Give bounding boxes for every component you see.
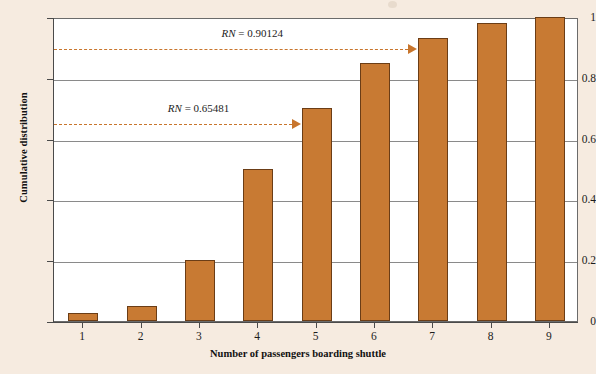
annotation-label-rn-high: RN = 0.90124 [222, 27, 284, 39]
x-axis-tick-label: 8 [471, 330, 511, 342]
bar-9 [535, 17, 565, 321]
bar-6 [360, 63, 390, 321]
x-axis-tick-label: 5 [296, 330, 336, 342]
x-axis-tick [141, 322, 142, 328]
y-axis-tick-label: 0.8 [552, 73, 596, 85]
y-axis-tick [47, 79, 54, 80]
bar-2 [127, 306, 157, 321]
x-axis-tick-label: 7 [412, 330, 452, 342]
x-axis-tick-label: 3 [179, 330, 219, 342]
x-axis-tick [257, 322, 258, 328]
y-axis-tick-label: 0.2 [552, 255, 596, 267]
y-axis-tick-label: 0.4 [552, 194, 596, 206]
x-axis-tick [316, 322, 317, 328]
y-axis-line [53, 18, 54, 323]
y-axis-tick-label: 0.6 [552, 134, 596, 146]
x-axis-tick-label: 1 [62, 330, 102, 342]
x-axis-tick [199, 322, 200, 328]
annotation-label-symbol: RN [168, 102, 182, 114]
y-axis-tick [47, 200, 54, 201]
annotation-dashed-line-rn-low [54, 124, 292, 125]
paper-speck [388, 1, 397, 8]
plot-area: RN = 0.90124RN = 0.65481 [53, 18, 578, 322]
y-axis-title: Cumulative distribution [18, 48, 29, 248]
x-axis-tick [491, 322, 492, 328]
x-axis-tick [549, 322, 550, 328]
x-axis-tick-label: 4 [237, 330, 277, 342]
bar-4 [243, 169, 273, 321]
x-axis-tick [374, 322, 375, 328]
x-axis-tick [82, 322, 83, 328]
y-axis-tick-label: 1 [552, 12, 596, 24]
x-axis-tick [432, 322, 433, 328]
x-axis-tick-label: 9 [529, 330, 569, 342]
figure-canvas: RN = 0.90124RN = 0.65481 00.20.40.60.81 … [0, 0, 596, 374]
bar-5 [302, 108, 332, 321]
annotation-arrowhead-rn-low [292, 119, 301, 129]
annotation-label-rn-low: RN = 0.65481 [168, 102, 230, 114]
annotation-arrowhead-rn-high [408, 44, 417, 54]
bar-3 [185, 260, 215, 321]
y-axis-tick [47, 18, 54, 19]
annotation-dashed-line-rn-high [54, 49, 408, 50]
bar-8 [477, 23, 507, 321]
x-axis-tick-label: 6 [354, 330, 394, 342]
y-axis-tick [47, 140, 54, 141]
x-axis-tick-label: 2 [121, 330, 161, 342]
y-axis-tick [47, 261, 54, 262]
bar-1 [68, 313, 98, 321]
x-axis-title: Number of passengers boarding shuttle [0, 348, 596, 359]
bar-7 [418, 38, 448, 321]
annotation-label-symbol: RN [222, 27, 236, 39]
